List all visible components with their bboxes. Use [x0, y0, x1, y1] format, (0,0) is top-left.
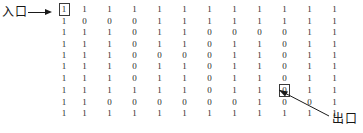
matrix-cell: 1	[172, 27, 197, 38]
matrix-cell-value: 0	[179, 97, 190, 108]
matrix-cell: 1	[172, 72, 197, 83]
matrix-cell-value: 1	[104, 39, 115, 50]
matrix-cell: 1	[97, 72, 122, 83]
matrix-cell: 1	[222, 39, 247, 50]
matrix-cell-value: 0	[129, 16, 140, 27]
entrance-label: 入口	[2, 6, 27, 18]
matrix-cell: 0	[122, 39, 147, 50]
exit-annotation: 出口	[272, 86, 362, 131]
matrix-cell-value: 1	[329, 50, 340, 61]
matrix-cell-value: 0	[154, 97, 165, 108]
matrix-cell-value: 1	[304, 50, 315, 61]
matrix-cell-value: 1	[104, 73, 115, 84]
matrix-cell: 1	[72, 3, 97, 16]
matrix-cell: 1	[56, 108, 72, 119]
matrix-cell: 1	[147, 61, 172, 72]
matrix-cell: 1	[172, 61, 197, 72]
matrix-cell: 1	[222, 84, 247, 97]
matrix-cell-value: 1	[279, 4, 290, 15]
matrix-cell-value: 0	[279, 73, 290, 84]
matrix-cell: 0	[272, 27, 297, 38]
matrix-cell-value: 1	[254, 61, 265, 72]
matrix-cell-value: 1	[154, 61, 165, 72]
matrix-cell-value: 1	[104, 27, 115, 38]
matrix-cell-value: 0	[279, 50, 290, 61]
matrix-cell: 1	[97, 84, 122, 97]
matrix-cell-value: 1	[229, 85, 240, 96]
exit-label: 出口	[332, 113, 358, 125]
matrix-cell-value: 1	[329, 27, 340, 38]
matrix-cell-value: 1	[79, 50, 90, 61]
matrix-cell-value: 1	[59, 16, 70, 27]
matrix-cell-value: 1	[79, 39, 90, 50]
matrix-cell: 0	[122, 27, 147, 38]
matrix-cell-value: 1	[104, 4, 115, 15]
matrix-cell-value: 0	[129, 61, 140, 72]
matrix-cell: 1	[247, 84, 272, 97]
matrix-row: 111011000011	[56, 27, 347, 38]
matrix-cell-value: 1	[59, 108, 70, 119]
matrix-cell-value: 1	[254, 39, 265, 50]
matrix-cell: 1	[297, 16, 322, 27]
matrix-cell: 1	[56, 72, 72, 83]
matrix-cell: 0	[197, 72, 222, 83]
matrix-cell-value: 1	[79, 27, 90, 38]
matrix-cell: 1	[322, 16, 347, 27]
matrix-cell-value: 1	[154, 27, 165, 38]
matrix-cell-value: 0	[129, 97, 140, 108]
matrix-cell-value: 1	[79, 73, 90, 84]
matrix-cell: 1	[56, 61, 72, 72]
matrix-cell-value: 1	[229, 61, 240, 72]
matrix-cell: 1	[122, 84, 147, 97]
matrix-cell: 1	[56, 84, 72, 97]
matrix-cell: 0	[197, 27, 222, 38]
matrix-cell-value: 1	[154, 108, 165, 119]
matrix-cell: 1	[72, 27, 97, 38]
matrix-cell-value: 1	[59, 3, 70, 16]
matrix-cell-value: 0	[229, 27, 240, 38]
matrix-cell-value: 1	[329, 73, 340, 84]
matrix-cell-value: 1	[229, 50, 240, 61]
matrix-cell: 1	[247, 3, 272, 16]
matrix-cell-value: 1	[154, 39, 165, 50]
matrix-cell-value: 1	[59, 97, 70, 108]
matrix-cell: 0	[72, 16, 97, 27]
matrix-cell-value: 1	[154, 4, 165, 15]
matrix-cell-value: 1	[179, 4, 190, 15]
matrix-row: 100011111111	[56, 16, 347, 27]
matrix-cell: 1	[222, 61, 247, 72]
matrix-cell: 1	[56, 27, 72, 38]
matrix-cell: 1	[297, 61, 322, 72]
matrix-cell: 0	[197, 39, 222, 50]
matrix-cell-value: 1	[204, 108, 215, 119]
matrix-cell-value: 1	[279, 16, 290, 27]
matrix-row: 111111111111	[56, 3, 347, 16]
matrix-cell: 1	[222, 108, 247, 119]
matrix-cell: 1	[97, 27, 122, 38]
matrix-cell: 1	[56, 50, 72, 61]
matrix-cell-value: 0	[129, 50, 140, 61]
matrix-cell: 1	[247, 108, 272, 119]
matrix-cell-value: 1	[229, 108, 240, 119]
matrix-cell-value: 1	[79, 97, 90, 108]
matrix-cell: 0	[122, 97, 147, 108]
matrix-cell-value: 1	[79, 4, 90, 15]
matrix-cell: 1	[322, 72, 347, 83]
matrix-cell: 1	[122, 108, 147, 119]
matrix-cell: 0	[222, 97, 247, 108]
matrix-cell-value: 1	[304, 4, 315, 15]
matrix-cell: 1	[197, 108, 222, 119]
matrix-cell: 1	[247, 50, 272, 61]
matrix-cell-value: 0	[204, 97, 215, 108]
matrix-cell: 1	[222, 72, 247, 83]
matrix-cell: 0	[197, 61, 222, 72]
matrix-cell-value: 0	[179, 50, 190, 61]
matrix-cell-value: 1	[179, 16, 190, 27]
matrix-cell: 1	[72, 50, 97, 61]
matrix-cell: 1	[56, 39, 72, 50]
matrix-cell-value: 1	[179, 73, 190, 84]
matrix-cell-value: 1	[179, 27, 190, 38]
matrix-cell-marked: 1	[56, 3, 72, 16]
matrix-cell: 0	[122, 16, 147, 27]
matrix-cell-value: 1	[204, 16, 215, 27]
